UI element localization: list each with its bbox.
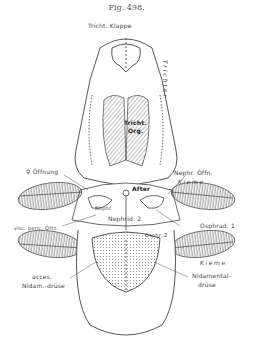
label-acces-1: acces. xyxy=(32,273,52,280)
label-nephr: Nephr. xyxy=(95,205,113,211)
label-nephrid-2: Nephrid. 2 xyxy=(108,215,141,222)
label-nidamental-1: Nidamental- xyxy=(192,272,231,279)
label-visc-peric-opening: visc. peric. Öffn. xyxy=(14,225,58,231)
label-trichter-organ-1: Tricht. xyxy=(124,119,147,126)
label-after: After xyxy=(132,185,150,192)
label-female-opening: ♀ Öffnung xyxy=(26,168,58,175)
label-osphrad-1: Osphrad. 1 xyxy=(200,222,235,229)
label-kieme-lower: Kieme xyxy=(200,259,227,266)
body-center xyxy=(72,183,180,232)
label-nephr-opening: Nephr. Öffn. xyxy=(174,169,213,176)
label-acces-2: Nidam.-drüse xyxy=(22,282,65,289)
label-trichter: Trichter xyxy=(162,60,169,99)
label-kieme-upper: Kieme xyxy=(178,178,205,185)
label-trichter-organ-2: Org. xyxy=(128,127,143,134)
label-nidamental-2: drüse xyxy=(198,281,216,288)
mantle xyxy=(77,230,176,335)
label-trichter-klappe: Tricht. Klappe xyxy=(88,22,132,29)
label-osphr-2: Osphr. 2 xyxy=(145,232,167,238)
